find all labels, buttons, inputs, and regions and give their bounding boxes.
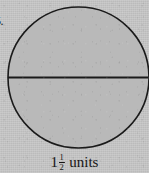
circle-diagram: [0, 0, 149, 173]
fraction-numerator: 1: [59, 153, 65, 162]
fraction-denominator: 2: [59, 163, 65, 172]
figure-page: 5. 112units: [0, 0, 149, 173]
figure-caption: 112units: [0, 152, 149, 173]
caption-whole-number: 1: [51, 155, 59, 170]
caption-fraction: 12: [59, 153, 65, 171]
caption-unit-word: units: [69, 155, 98, 170]
